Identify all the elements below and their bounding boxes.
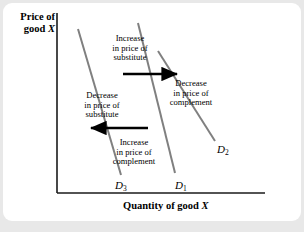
note-line-3: substitute — [114, 52, 147, 62]
x-axis-label: Quantity of good X — [123, 200, 208, 212]
x-axis-label-text: Quantity of good — [123, 200, 201, 211]
note-line-3: complement — [170, 97, 212, 107]
note-decrease-price-complement: Decrease in price of complement — [161, 79, 221, 108]
y-axis-label-variable: X — [48, 23, 55, 34]
curve-label-d3: D3 — [115, 179, 127, 191]
curve-label-subscript: 3 — [123, 184, 127, 193]
note-line-3: substitute — [86, 109, 119, 119]
note-line-1: Increase — [120, 137, 149, 147]
curve-label-d2: D2 — [217, 143, 229, 155]
curve-label-letter: D — [115, 179, 123, 191]
note-line-2: in price of — [112, 43, 147, 53]
note-line-2: in price of — [116, 147, 151, 157]
y-axis-label-line1: Price of — [20, 11, 55, 22]
note-line-3: complement — [113, 156, 155, 166]
note-line-2: in price of — [173, 88, 208, 98]
curve-label-letter: D — [175, 179, 183, 191]
x-axis-label-variable: X — [201, 200, 208, 211]
y-axis-label: Price of good X — [7, 11, 55, 34]
diagram-card: Price of good X Quantity of good X Incre… — [3, 3, 301, 221]
note-line-1: Decrease — [175, 78, 206, 88]
curve-label-subscript: 2 — [225, 148, 229, 157]
note-increase-price-complement: Increase in price of complement — [101, 138, 167, 167]
note-decrease-price-substitute: Decrease in price of substitute — [71, 91, 133, 120]
y-axis-label-line2: good — [24, 23, 48, 34]
note-line-2: in price of — [84, 100, 119, 110]
curve-label-d1: D1 — [175, 179, 187, 191]
note-line-1: Increase — [116, 33, 145, 43]
note-increase-price-substitute: Increase in price of substitute — [99, 34, 161, 63]
curve-label-letter: D — [217, 143, 225, 155]
note-line-1: Decrease — [86, 90, 117, 100]
curve-label-subscript: 1 — [183, 184, 187, 193]
